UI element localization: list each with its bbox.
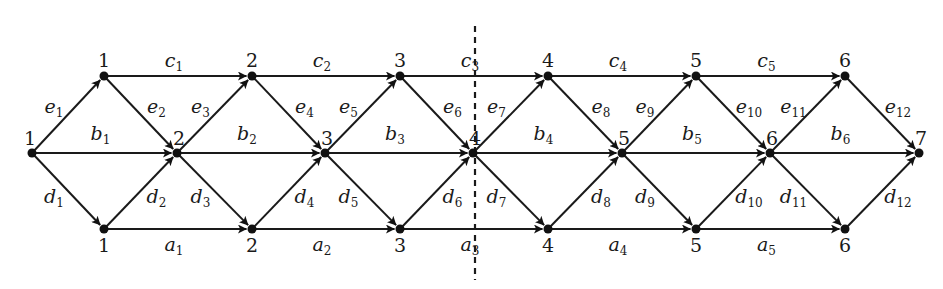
node-label-t6: 6: [839, 49, 851, 71]
edge-label-b1: b1: [91, 122, 111, 147]
edge-label-d6: d6: [443, 185, 463, 210]
edge-label-e2: e2: [147, 95, 166, 120]
edge-label-e11: e11: [780, 95, 807, 120]
edge-d6: [400, 157, 469, 229]
node-m2: [173, 149, 182, 158]
edge-label-b4: b4: [534, 122, 554, 147]
node-label-m6: 6: [766, 127, 778, 149]
node-label-t4: 4: [542, 49, 554, 71]
edge-label-d5: d5: [339, 185, 359, 210]
node-label-b1: 1: [98, 234, 110, 256]
node-m4: [469, 149, 478, 158]
edge-label-e7: e7: [487, 95, 506, 120]
edge-d2: [104, 157, 173, 229]
node-m1: [28, 149, 37, 158]
edge-label-d9: d9: [635, 185, 655, 210]
node-label-m7: 7: [915, 127, 927, 149]
node-t1: [100, 72, 109, 81]
edge-label-c1: c1: [165, 49, 183, 74]
node-b5: [692, 225, 701, 234]
edge-d1: [32, 153, 100, 225]
edge-label-b6: b6: [831, 122, 851, 147]
node-label-t3: 3: [394, 49, 406, 71]
edge-label-b2: b2: [237, 122, 257, 147]
node-label-b2: 2: [246, 234, 258, 256]
edge-label-d1: d1: [44, 185, 64, 210]
node-m5: [618, 149, 627, 158]
node-label-b4: 4: [542, 234, 554, 256]
edge-label-e10: e10: [736, 95, 763, 120]
edge-label-e4: e4: [295, 95, 314, 120]
edge-label-e12: e12: [885, 95, 912, 120]
node-label-t5: 5: [690, 49, 702, 71]
node-label-m5: 5: [618, 127, 630, 149]
edge-d12: [845, 157, 915, 229]
node-label-t2: 2: [246, 49, 258, 71]
edge-label-e8: e8: [592, 95, 611, 120]
edge-d10: [696, 157, 766, 229]
edge-d8: [548, 157, 618, 229]
node-t5: [692, 72, 701, 81]
edge-label-e6: e6: [443, 95, 462, 120]
edge-label-e1: e1: [45, 95, 64, 120]
edge-label-d2: d2: [147, 185, 167, 210]
node-label-b5: 5: [690, 234, 702, 256]
edge-label-a2: a2: [313, 233, 332, 258]
edge-label-c3: c3: [461, 49, 479, 74]
node-t4: [544, 72, 553, 81]
edge-d7: [473, 153, 544, 225]
node-b3: [396, 225, 405, 234]
edge-label-c2: c2: [313, 49, 331, 74]
edge-d5: [325, 153, 396, 225]
edge-d3: [177, 153, 248, 225]
edge-label-d12: d12: [884, 185, 911, 210]
edge-label-b5: b5: [682, 122, 702, 147]
edge-label-d3: d3: [191, 185, 211, 210]
edge-label-a5: a5: [757, 233, 776, 258]
edge-label-e5: e5: [339, 95, 358, 120]
node-m7: [915, 149, 924, 158]
edge-label-c5: c5: [757, 49, 775, 74]
node-b2: [248, 225, 257, 234]
node-m6: [766, 149, 775, 158]
edge-label-a1: a1: [165, 233, 184, 258]
edge-label-e9: e9: [636, 95, 655, 120]
edge-label-c4: c4: [609, 49, 628, 74]
node-label-b6: 6: [839, 234, 851, 256]
edge-label-b3: b3: [385, 122, 405, 147]
node-label-t1: 1: [98, 49, 110, 71]
layered-graph-diagram: c1c2c3c4c5b1b2b3b4b5b6a1a2a3a4a5e1e2e3e4…: [0, 0, 943, 289]
edge-label-e3: e3: [191, 95, 210, 120]
edge-label-d8: d8: [591, 185, 611, 210]
edge-d4: [252, 157, 321, 229]
edge-label-d7: d7: [487, 185, 507, 210]
node-t2: [248, 72, 257, 81]
node-b4: [544, 225, 553, 234]
node-m3: [321, 149, 330, 158]
node-t6: [841, 72, 850, 81]
edge-label-a3: a3: [461, 233, 480, 258]
edge-label-a4: a4: [609, 233, 628, 258]
node-b1: [100, 225, 109, 234]
node-label-b3: 3: [394, 234, 406, 256]
node-label-m1: 1: [24, 127, 36, 149]
edge-d9: [622, 153, 692, 225]
node-label-m3: 3: [321, 127, 333, 149]
node-label-m4: 4: [469, 127, 481, 149]
node-b6: [841, 225, 850, 234]
edge-label-d11: d11: [780, 185, 807, 210]
edge-label-d4: d4: [295, 185, 315, 210]
edge-label-d10: d10: [735, 185, 762, 210]
node-label-m2: 2: [173, 127, 185, 149]
node-t3: [396, 72, 405, 81]
